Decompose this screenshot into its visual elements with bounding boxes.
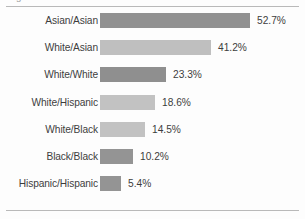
bar-value-label: 23.3% <box>173 67 202 82</box>
bar-category-label: White/Black <box>0 122 98 137</box>
bar-category-label: White/Asian <box>0 40 98 55</box>
chart-bar-row: White/Black14.5% <box>0 122 305 137</box>
chart-plot-area: Asian/Asian52.7%White/Asian41.2%White/Wh… <box>0 13 305 209</box>
clipped-title-text: Figure <box>8 0 128 2</box>
chart-bar-row: White/Hispanic18.6% <box>0 95 305 110</box>
top-divider-rule <box>6 6 299 7</box>
bar-value-label: 52.7% <box>257 13 286 28</box>
bar-value-label: 14.5% <box>152 122 181 137</box>
bar-category-label: White/White <box>0 67 98 82</box>
bar-category-label: Hispanic/Hispanic <box>0 176 98 191</box>
chart-bar-row: White/White23.3% <box>0 67 305 82</box>
bar-value-label: 5.4% <box>128 176 151 191</box>
bar-rect <box>100 176 121 191</box>
bar-category-label: Asian/Asian <box>0 13 98 28</box>
bar-value-label: 10.2% <box>140 149 169 164</box>
bar-rect <box>100 122 145 137</box>
bottom-divider-rule <box>6 210 299 211</box>
chart-bar-row: Hispanic/Hispanic5.4% <box>0 176 305 191</box>
chart-bar-row: Asian/Asian52.7% <box>0 13 305 28</box>
bar-category-label: White/Hispanic <box>0 95 98 110</box>
bar-value-label: 41.2% <box>218 40 247 55</box>
bar-category-label: Black/Black <box>0 149 98 164</box>
bar-chart-figure: Figure Asian/Asian52.7%White/Asian41.2%W… <box>0 0 305 219</box>
chart-bar-row: Black/Black10.2% <box>0 149 305 164</box>
bar-value-label: 18.6% <box>162 95 191 110</box>
bar-rect <box>100 40 211 55</box>
bar-rect <box>100 67 166 82</box>
chart-bar-row: White/Asian41.2% <box>0 40 305 55</box>
bar-rect <box>100 95 155 110</box>
bar-rect <box>100 149 133 164</box>
bar-rect <box>100 13 250 28</box>
